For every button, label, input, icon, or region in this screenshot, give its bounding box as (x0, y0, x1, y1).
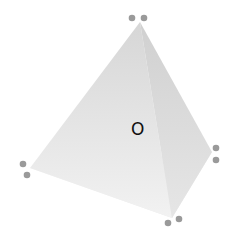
left-dot (24, 172, 31, 179)
front-dot (176, 216, 183, 223)
tetrahedron-diagram (0, 0, 234, 241)
right-dot (213, 157, 220, 164)
right-dot (213, 145, 220, 152)
center-label: O (131, 121, 144, 138)
apex-dot (141, 15, 148, 22)
apex-dot (129, 15, 136, 22)
front-dot (165, 220, 172, 227)
left-dot (20, 161, 27, 168)
